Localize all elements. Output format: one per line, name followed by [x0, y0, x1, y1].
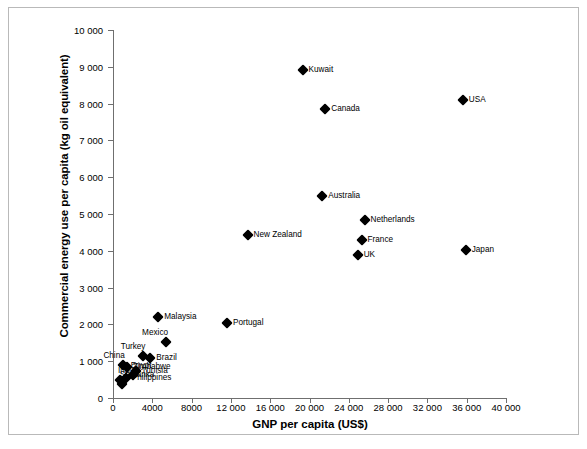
y-tick-mark	[108, 214, 113, 215]
y-tick-mark	[108, 288, 113, 289]
data-point-label: UK	[364, 251, 375, 259]
diamond-marker-icon	[297, 65, 308, 76]
diamond-marker-icon	[320, 103, 331, 114]
x-tick-label: 20 000	[295, 403, 324, 413]
y-axis-line	[113, 30, 114, 399]
diamond-marker-icon	[457, 94, 468, 105]
diamond-marker-icon	[356, 234, 367, 245]
y-tick-label: 3 000	[0, 284, 103, 294]
y-tick-label: 0	[0, 394, 103, 404]
x-tick-label: 8000	[181, 403, 202, 413]
y-tick-label: 10 000	[0, 26, 103, 36]
data-point-label: Netherlands	[371, 216, 415, 224]
y-tick-label: 8 000	[0, 100, 103, 110]
data-point-label: Sri Lanka	[120, 371, 155, 379]
x-tick-label: 40 000	[491, 403, 520, 413]
x-tick-label: 12 000	[216, 403, 245, 413]
y-tick-mark	[108, 177, 113, 178]
data-point-label: USA	[469, 96, 486, 104]
x-tick-label: 24 000	[334, 403, 363, 413]
data-point-label: China	[103, 352, 124, 360]
y-tick-mark	[108, 251, 113, 252]
data-point-label: New Zealand	[254, 231, 302, 239]
x-tick-label: 16 000	[256, 403, 285, 413]
data-point-label: Kuwait	[309, 66, 334, 74]
x-tick-label: 0	[110, 403, 115, 413]
x-axis-title: GNP per capita (US$)	[113, 418, 507, 430]
figure-container: 01 0002 0003 0004 0005 0006 0007 0008 00…	[0, 0, 587, 449]
diamond-marker-icon	[160, 337, 171, 348]
y-tick-label: 7 000	[0, 136, 103, 146]
diamond-marker-icon	[153, 311, 164, 322]
diamond-marker-icon	[242, 230, 253, 241]
y-tick-label: 4 000	[0, 247, 103, 257]
y-tick-mark	[108, 104, 113, 105]
x-tick-label: 28 000	[374, 403, 403, 413]
data-point-label: Mexico	[142, 329, 168, 337]
x-tick-label: 4000	[142, 403, 163, 413]
y-tick-label: 5 000	[0, 210, 103, 220]
data-point-label: Japan	[472, 246, 494, 254]
y-tick-mark	[108, 67, 113, 68]
diamond-marker-icon	[352, 250, 363, 261]
x-tick-label: 36 000	[452, 403, 481, 413]
data-point-label: Brazil	[156, 354, 176, 362]
diamond-marker-icon	[359, 215, 370, 226]
y-tick-mark	[108, 361, 113, 362]
data-point-label: France	[368, 236, 393, 244]
data-point-label: Australia	[328, 192, 360, 200]
y-axis-title: Commercial energy use per capita (kg oil…	[58, 36, 70, 356]
x-tick-label: 32 000	[413, 403, 442, 413]
y-tick-label: 2 000	[0, 320, 103, 330]
data-point-label: Turkey	[121, 343, 146, 351]
y-tick-label: 6 000	[0, 173, 103, 183]
data-point-label: Portugal	[233, 319, 264, 327]
y-tick-mark	[108, 324, 113, 325]
y-tick-mark	[108, 140, 113, 141]
diamond-marker-icon	[317, 191, 328, 202]
scatter-plot: 01 0002 0003 0004 0005 0006 0007 0008 00…	[0, 0, 587, 449]
data-point-label: Malaysia	[164, 313, 196, 321]
y-tick-label: 1 000	[0, 357, 103, 367]
diamond-marker-icon	[221, 317, 232, 328]
data-point-label: Canada	[331, 105, 360, 113]
y-tick-label: 9 000	[0, 63, 103, 73]
diamond-marker-icon	[460, 244, 471, 255]
y-tick-mark	[108, 30, 113, 31]
